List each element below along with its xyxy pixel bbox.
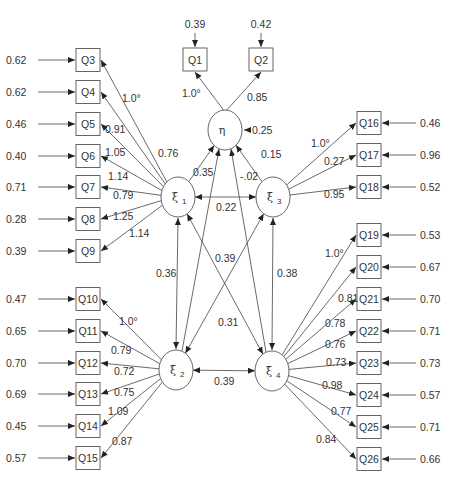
indicator-q18-label: Q18 (359, 181, 379, 193)
loading-q15: 0.87 (112, 435, 133, 447)
error-q17: 0.96 (420, 149, 441, 161)
latent-subscript-xi4: 4 (276, 371, 281, 380)
error-q7: 0.71 (6, 181, 27, 193)
loading-q23: 0.73 (326, 356, 347, 368)
error-q8: 0.28 (6, 213, 27, 225)
error-q21: 0.70 (420, 293, 441, 305)
error-q5: 0.46 (6, 118, 27, 130)
indicator-q4-label: Q4 (81, 86, 95, 98)
indicator-q26-label: Q26 (359, 453, 379, 465)
latent-label-xi4: ξ (266, 365, 272, 378)
loading-q11: 0.79 (111, 344, 132, 356)
eta-error-label: 0.25 (252, 124, 273, 136)
latent-subscript-xi1: 1 (182, 197, 187, 206)
loading-arrow-q26 (285, 384, 356, 459)
covariance-coef-xi2-xi3: 0.39 (215, 252, 236, 264)
loading-q3: 1.0° (122, 92, 141, 104)
error-q1: 0.39 (185, 18, 206, 30)
error-q19: 0.53 (420, 229, 441, 241)
indicator-q10-label: Q10 (78, 293, 98, 305)
loading-q22: 0.76 (325, 338, 346, 350)
indicator-q21-label: Q21 (359, 293, 379, 305)
error-q15: 0.57 (6, 452, 27, 464)
loading-q1: 1.0° (182, 87, 201, 99)
error-q23: 0.73 (420, 357, 441, 369)
error-q6: 0.40 (6, 150, 27, 162)
latent-subscript-xi2: 2 (180, 370, 185, 379)
indicator-q15-label: Q15 (78, 452, 98, 464)
indicator-q9-label: Q9 (81, 245, 95, 257)
indicator-q3-label: Q3 (81, 54, 95, 66)
indicator-q20-label: Q20 (359, 261, 379, 273)
error-q24: 0.57 (420, 389, 441, 401)
latent-label-xi3: ξ (267, 191, 273, 204)
loading-q19: 1.0° (325, 247, 344, 259)
error-q11: 0.65 (6, 325, 27, 337)
indicator-q22-label: Q22 (359, 325, 379, 337)
latent-label-xi2: ξ (170, 364, 176, 377)
loading-q14: 1.09 (108, 405, 129, 417)
error-q26: 0.66 (420, 453, 441, 465)
loading-q10: 1.0° (119, 315, 138, 327)
loading-arrow-q3 (101, 60, 167, 182)
indicator-q12-label: Q12 (78, 357, 98, 369)
loading-q9: 1.14 (129, 227, 150, 239)
loading-arrow-q18 (290, 187, 356, 195)
loading-q16: 1.0° (311, 137, 330, 149)
loading-q18: 0.95 (324, 188, 345, 200)
indicator-q16-label: Q16 (359, 117, 379, 129)
loading-q24: 0.98 (322, 379, 343, 391)
loading-q26: 0.84 (316, 433, 337, 445)
loading-q8: 1.25 (113, 210, 134, 222)
indicator-q5-label: Q5 (81, 118, 95, 130)
covariance-coef-xi3-xi4: 0.38 (277, 267, 298, 279)
error-q12: 0.70 (6, 357, 27, 369)
indicator-q8-label: Q8 (81, 213, 95, 225)
latent-label-xi1: ξ (172, 191, 178, 204)
loading-q21: 0.78 (325, 317, 346, 329)
error-q10: 0.47 (6, 293, 27, 305)
error-q14: 0.45 (6, 420, 27, 432)
indicator-q11-label: Q11 (78, 325, 97, 337)
indicator-q19-label: Q19 (359, 229, 379, 241)
loading-q5: 1.05 (105, 146, 126, 158)
indicator-q14-label: Q14 (78, 420, 98, 432)
loading-arrow-q17 (289, 155, 356, 189)
loading-q4: 0.91 (105, 123, 126, 135)
covariance-coef-xi1-xi4: 0.31 (218, 316, 239, 328)
indicator-q7-label: Q7 (81, 181, 95, 193)
error-q2: 0.42 (251, 18, 272, 30)
loading-q20: 0.81 (338, 292, 359, 304)
indicator-q1-label: Q1 (188, 54, 202, 66)
loading-q7: 0.79 (113, 189, 134, 201)
error-q20: 0.67 (420, 261, 441, 273)
loading-arrow-q21 (286, 299, 356, 359)
error-q25: 0.71 (420, 421, 441, 433)
structural-coef-xi1: 0.76 (158, 147, 179, 159)
error-q3: 0.62 (6, 54, 27, 66)
structural-coef-xi3: 0.15 (261, 148, 282, 160)
covariance-coef-xi2-xi4: 0.39 (214, 375, 235, 387)
sem-path-diagram: ηξ1ξ3ξ2ξ40.25Q10.391.0°Q20.420.85Q30.621… (0, 0, 455, 485)
error-q4: 0.62 (6, 86, 27, 98)
structural-coef-xi4: -.02 (240, 170, 258, 182)
loading-q6: 1.14 (108, 170, 129, 182)
indicator-q24-label: Q24 (359, 389, 379, 401)
indicator-q2-label: Q2 (254, 54, 268, 66)
latent-label-eta: η (219, 124, 226, 137)
covariance-coef-xi1-xi2: 0.36 (156, 267, 177, 279)
error-q22: 0.71 (420, 325, 441, 337)
covariance-xi1-xi2 (176, 218, 178, 349)
error-q16: 0.46 (420, 117, 441, 129)
structural-coef-xi2: 0.35 (193, 166, 214, 178)
indicator-q13-label: Q13 (78, 388, 98, 400)
covariance-coef-xi1-xi3: 0.22 (216, 201, 237, 213)
indicator-q25-label: Q25 (359, 421, 379, 433)
covariance-xi2-xi4 (193, 370, 255, 371)
loading-q12: 0.72 (114, 365, 135, 377)
indicator-q6-label: Q6 (81, 150, 95, 162)
covariance-xi3-xi4 (272, 218, 273, 350)
indicator-q17-label: Q17 (359, 149, 379, 161)
loading-q13: 0.75 (114, 386, 135, 398)
indicator-q23-label: Q23 (359, 357, 379, 369)
